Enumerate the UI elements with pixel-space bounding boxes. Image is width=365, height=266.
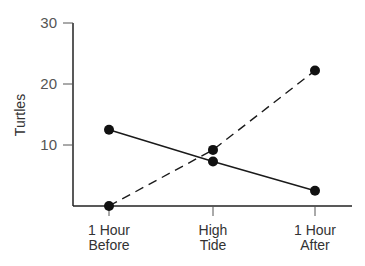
- y-tick-label: 30: [40, 14, 57, 31]
- x-ticks: 1 HourBeforeHighTide1 HourAfter: [88, 206, 336, 253]
- x-tick-label: High: [199, 222, 228, 238]
- axes: [73, 23, 352, 206]
- data-point-marker: [208, 156, 218, 166]
- y-tick-label: 10: [40, 136, 57, 153]
- data-point-marker: [310, 66, 320, 76]
- x-tick-label: 1 Hour: [294, 222, 336, 238]
- data-point-marker: [104, 125, 114, 135]
- data-point-marker: [208, 145, 218, 155]
- x-tick-label: 1 Hour: [88, 222, 130, 238]
- x-tick-label: Before: [88, 237, 129, 253]
- y-ticks: 102030: [40, 14, 73, 153]
- x-tick-label: After: [300, 237, 330, 253]
- data-point-marker: [104, 201, 114, 211]
- series-line-dashed: [109, 71, 315, 206]
- x-tick-label: Tide: [200, 237, 227, 253]
- y-axis-label: Turtles: [12, 94, 28, 136]
- data-point-marker: [310, 186, 320, 196]
- series-group: [104, 66, 320, 211]
- y-tick-label: 20: [40, 75, 57, 92]
- line-chart: 102030 1 HourBeforeHighTide1 HourAfter T…: [0, 0, 365, 266]
